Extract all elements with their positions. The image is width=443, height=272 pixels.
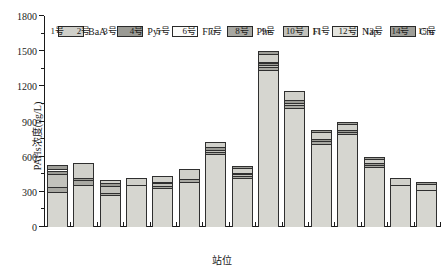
bar-10[interactable] — [284, 91, 305, 227]
y-tick-minor-1350 — [41, 68, 44, 69]
x-tick-14 — [414, 222, 415, 227]
bar-segment-nap — [416, 190, 437, 227]
y-tick-minor-150 — [41, 208, 44, 209]
y-tick-label-1800: 1800 — [17, 11, 37, 22]
bar-2[interactable] — [73, 163, 94, 227]
bar-6[interactable] — [179, 169, 200, 227]
y-tick-minor-450 — [41, 173, 44, 174]
x-tick-label-4: 4号 — [130, 24, 144, 37]
bar-segment-baa — [258, 54, 279, 61]
bar-11[interactable] — [311, 130, 332, 227]
x-tick-label-12: 12号 — [339, 24, 357, 37]
x-tick-label-9: 9号 — [262, 24, 276, 37]
y-tick-label-1500: 1500 — [17, 46, 37, 57]
bar-segment-fl — [100, 186, 121, 193]
x-tick-4 — [150, 222, 151, 227]
x-tick-11 — [334, 222, 335, 227]
x-tick-label-14: 14号 — [391, 24, 409, 37]
chart-figure: BaAPyrFluPheFlNapChr PAHs浓度(ng/L) 030060… — [0, 0, 443, 272]
bar-7[interactable] — [205, 142, 226, 227]
bar-segment-nap — [232, 178, 253, 227]
bar-segment-nap — [152, 188, 173, 227]
bar-segment-nap — [179, 182, 200, 227]
y-tick-label-0: 0 — [32, 222, 37, 233]
bar-14[interactable] — [390, 178, 411, 227]
bar-5[interactable] — [152, 176, 173, 227]
y-tick-300 — [39, 191, 44, 192]
bar-segment-nap — [284, 108, 305, 227]
x-tick-label-10: 10号 — [286, 24, 304, 37]
y-tick-minor-750 — [41, 138, 44, 139]
x-tick-5 — [176, 222, 177, 227]
x-tick-label-3: 3号 — [103, 24, 117, 37]
bar-12[interactable] — [337, 122, 358, 227]
x-tick-label-15: 15号 — [418, 24, 436, 37]
bar-segment-nap — [258, 70, 279, 227]
bar-segment-nap — [337, 134, 358, 227]
x-tick-15 — [440, 222, 441, 227]
bar-segment-baa — [311, 132, 332, 139]
x-tick-10 — [308, 222, 309, 227]
y-tick-label-900: 900 — [22, 116, 37, 127]
y-tick-1500 — [39, 50, 44, 51]
bar-segment-nap — [205, 154, 226, 227]
bar-segment-baa — [179, 169, 200, 179]
bar-segment-baa — [390, 178, 411, 185]
y-axis-line — [44, 16, 45, 227]
bar-3[interactable] — [100, 180, 121, 227]
bar-segment-nap — [364, 167, 385, 227]
x-tick-label-8: 8号 — [235, 24, 249, 37]
y-tick-label-1200: 1200 — [17, 81, 37, 92]
bar-segment-nap — [390, 185, 411, 227]
y-tick-minor-1050 — [41, 103, 44, 104]
x-tick-8 — [255, 222, 256, 227]
x-tick-13 — [387, 222, 388, 227]
y-tick-1200 — [39, 85, 44, 86]
x-tick-9 — [282, 222, 283, 227]
bar-9[interactable] — [258, 51, 279, 227]
x-tick-label-11: 11号 — [312, 24, 330, 37]
x-tick-7 — [229, 222, 230, 227]
y-tick-label-300: 300 — [22, 186, 37, 197]
bar-segment-nap — [73, 185, 94, 227]
x-tick-label-5: 5号 — [156, 24, 170, 37]
x-axis-title: 站位 — [0, 252, 443, 267]
bar-segment-nap — [100, 195, 121, 227]
x-tick-label-1: 1号 — [50, 24, 64, 37]
bar-segment-nap — [126, 185, 147, 227]
bar-segment-nap — [311, 144, 332, 227]
bar-13[interactable] — [364, 157, 385, 227]
y-tick-1800 — [39, 15, 44, 16]
x-tick-label-7: 7号 — [209, 24, 223, 37]
x-tick-origin — [44, 222, 45, 227]
x-tick-12 — [361, 222, 362, 227]
bar-segment-baa — [126, 178, 147, 185]
x-tick-label-2: 2号 — [77, 24, 91, 37]
x-tick-3 — [123, 222, 124, 227]
bar-segment-nap — [47, 192, 68, 227]
bar-8[interactable] — [232, 166, 253, 227]
x-tick-label-6: 6号 — [182, 24, 196, 37]
y-tick-600 — [39, 156, 44, 157]
bar-segment-baa — [284, 91, 305, 101]
x-tick-label-13: 13号 — [365, 24, 383, 37]
y-tick-label-600: 600 — [22, 151, 37, 162]
bar-1[interactable] — [47, 165, 68, 227]
bar-15[interactable] — [416, 182, 437, 227]
x-tick-6 — [202, 222, 203, 227]
bar-4[interactable] — [126, 178, 147, 227]
bar-segment-baa — [73, 163, 94, 178]
x-tick-2 — [97, 222, 98, 227]
plot-area: 03006009001200150018001号2号3号4号5号6号7号8号9号… — [44, 16, 440, 227]
bar-segment-fl — [47, 174, 68, 187]
y-tick-minor-1650 — [41, 33, 44, 34]
y-tick-900 — [39, 121, 44, 122]
x-tick-1 — [70, 222, 71, 227]
